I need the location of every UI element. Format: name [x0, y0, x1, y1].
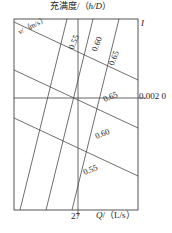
chart-title: 充满度/（h/D）: [50, 2, 111, 11]
velocity-line-2: [14, 70, 138, 128]
nomograph-figure: 充满度/（h/D） I 0.002 0 27 Q/（L/s） v/（m/s） 0…: [0, 0, 172, 233]
reference-value-q: 27: [71, 212, 80, 221]
y-axis-label: I: [141, 19, 144, 28]
velocity-line-3: [14, 118, 138, 176]
velocity-line-1: [14, 22, 138, 80]
nomograph-plot: [0, 0, 172, 233]
x-axis-label: Q/（L/s）: [96, 211, 135, 220]
filling-line-055: [20, 19, 67, 210]
reference-value-i: 0.002 0: [139, 92, 166, 101]
